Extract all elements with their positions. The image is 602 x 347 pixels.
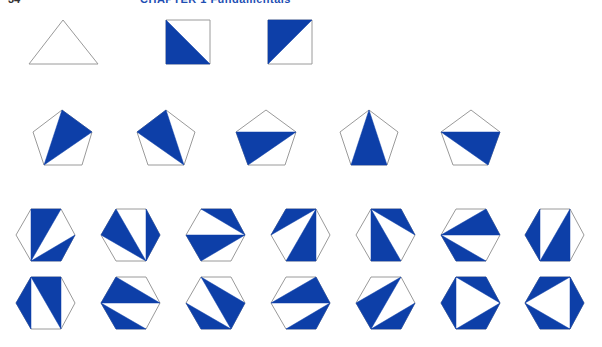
square-1 [166,20,210,64]
hexagon-8 [16,277,75,329]
hexagon-12 [356,277,415,329]
hexagon-11 [271,277,330,329]
hexagon-rows [16,209,584,329]
hexagon-9 [101,277,160,329]
pentagon-5 [441,110,500,165]
shaded-triangle [146,209,160,261]
square-2 [268,20,312,64]
triangle-1 [29,20,98,64]
hexagon-14 [525,277,584,329]
square-row [166,20,312,64]
hexagon-13 [441,277,500,329]
hexagon-6 [441,209,500,261]
pentagon-2 [137,110,195,165]
pentagon-3 [236,110,296,165]
shaded-triangle [570,277,584,329]
hexagon-4 [271,209,330,261]
hexagon-3 [186,209,245,261]
triangle-row [29,20,98,64]
shaded-triangle [525,209,540,261]
hexagon-10 [186,277,245,329]
shaded-triangle [441,277,456,329]
hexagon-7 [525,209,584,261]
polygon-triangulation-figure [0,0,602,347]
hexagon-5 [356,209,415,261]
shaded-triangle [16,277,31,329]
hexagon-1 [16,209,75,261]
triangle-outline [29,20,98,64]
pentagon-row [33,110,500,165]
hexagon-2 [101,209,160,261]
pentagon-1 [33,110,92,165]
pentagon-4 [340,110,398,165]
